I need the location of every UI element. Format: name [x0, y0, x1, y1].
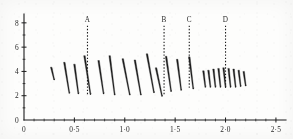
data-stroke: [64, 62, 70, 93]
data-stroke: [233, 69, 236, 87]
data-stroke: [134, 60, 141, 95]
data-stroke: [243, 71, 246, 86]
data-stroke: [218, 68, 221, 87]
data-stroke: [203, 71, 206, 87]
data-series-relaxation-traces: [50, 54, 246, 96]
data-stroke: [50, 67, 54, 80]
data-stroke: [98, 61, 104, 94]
event-marker-label-b: B: [162, 16, 167, 24]
event-marker-label-c: C: [187, 16, 192, 24]
event-marker-label-a: A: [85, 16, 91, 24]
y-tick-label: 4: [15, 67, 19, 76]
y-tick-label: 2: [15, 91, 19, 100]
y-tick-label: 6: [15, 43, 19, 52]
data-stroke: [176, 59, 181, 90]
data-stroke: [109, 56, 115, 95]
y-tick-label: 8: [15, 19, 19, 28]
x-tick-label: 1·0: [120, 125, 131, 134]
data-stroke: [208, 70, 211, 87]
figure-canvas: 0246800·51·01·52·02·5ABCD: [0, 0, 293, 139]
x-tick-label: 0: [22, 125, 26, 134]
data-stroke: [74, 64, 79, 94]
data-stroke: [165, 56, 171, 91]
x-tick-label: 1·5: [170, 125, 181, 134]
data-stroke: [146, 54, 154, 93]
data-stroke: [155, 68, 162, 97]
data-stroke: [238, 70, 241, 86]
x-tick-label: 0·5: [69, 125, 80, 134]
event-marker-label-d: D: [223, 16, 228, 24]
data-stroke: [122, 59, 130, 95]
data-stroke: [213, 69, 216, 87]
x-tick-label: 2·5: [271, 125, 282, 134]
data-stroke: [228, 68, 231, 87]
scatter-line-chart: 0246800·51·01·52·02·5ABCD: [0, 0, 293, 139]
x-tick-label: 2·0: [220, 125, 231, 134]
y-tick-label: 0: [15, 116, 19, 125]
